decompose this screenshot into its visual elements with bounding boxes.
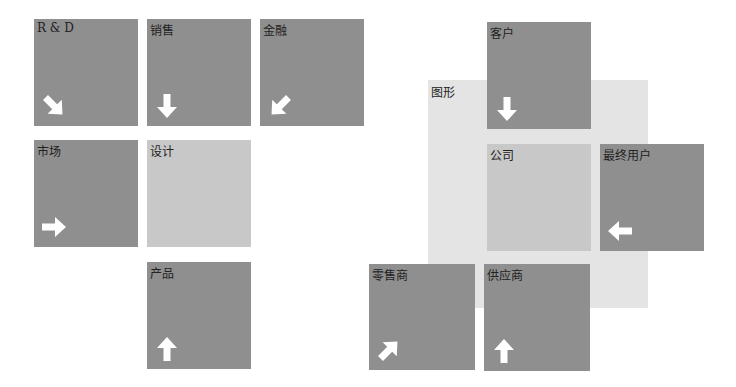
arrow-left-icon <box>606 217 634 245</box>
box-product: 产品 <box>147 262 251 369</box>
box-label: 供应商 <box>487 266 523 283</box>
box-label: 零售商 <box>372 266 408 283</box>
box-sales: 销售 <box>147 19 251 126</box>
box-marketing: 市场 <box>34 140 138 247</box>
box-label: R & D <box>37 21 74 35</box>
box-label: 产品 <box>150 264 174 281</box>
arrow-up-icon <box>153 335 181 363</box>
arrow-right-icon <box>40 213 68 241</box>
panel-label: 图形 <box>431 83 455 100</box>
box-customer: 客户 <box>487 22 591 129</box>
arrow-down-icon <box>493 95 521 123</box>
box-label: 客户 <box>490 24 514 41</box>
box-supplier: 供应商 <box>484 264 590 371</box>
arrow-down-right-icon <box>40 92 68 120</box>
box-finance: 金融 <box>260 19 364 126</box>
box-label: 公司 <box>490 146 514 163</box>
arrow-down-left-icon <box>266 92 294 120</box>
box-company: 公司 <box>487 144 591 251</box>
box-label: 最终用户 <box>603 146 651 163</box>
box-design: 设计 <box>147 140 251 247</box>
box-label: 市场 <box>37 142 61 159</box>
box-rnd: R & D <box>34 19 138 126</box>
box-label: 金融 <box>263 21 287 38</box>
arrow-up-icon <box>490 337 518 365</box>
arrow-down-icon <box>153 92 181 120</box>
box-label: 设计 <box>150 142 174 159</box>
box-retailer: 零售商 <box>369 264 475 370</box>
arrow-up-right-icon <box>375 336 403 364</box>
box-end-user: 最终用户 <box>600 144 704 251</box>
box-label: 销售 <box>150 21 174 38</box>
